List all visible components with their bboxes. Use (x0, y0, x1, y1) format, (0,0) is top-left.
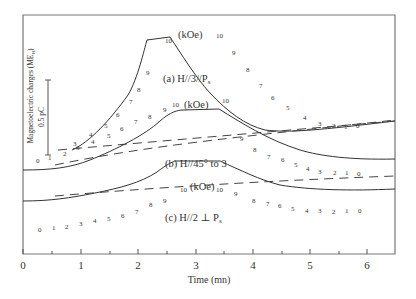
svg-text:0: 0 (356, 122, 360, 130)
svg-text:4: 4 (91, 138, 95, 146)
svg-text:9: 9 (163, 106, 167, 114)
svg-text:6: 6 (116, 111, 120, 119)
svg-text:3: 3 (193, 259, 199, 271)
svg-text:(kOe): (kOe) (178, 29, 203, 41)
svg-text:6: 6 (120, 125, 124, 133)
svg-text:2: 2 (332, 122, 336, 130)
svg-text:0: 0 (20, 259, 26, 271)
svg-text:10: 10 (180, 186, 188, 194)
svg-text:4: 4 (303, 114, 307, 122)
x-axis-label: Time (mn) (188, 274, 231, 286)
svg-text:9: 9 (146, 69, 150, 77)
svg-text:10: 10 (165, 37, 173, 45)
svg-text:3: 3 (76, 144, 80, 152)
svg-text:1: 1 (78, 259, 84, 271)
svg-text:6: 6 (121, 212, 125, 220)
svg-text:4: 4 (306, 165, 310, 173)
svg-text:8: 8 (148, 113, 152, 121)
svg-text:4: 4 (93, 217, 97, 225)
svg-text:9: 9 (240, 135, 244, 143)
svg-text:2: 2 (65, 223, 69, 231)
svg-text:6: 6 (364, 259, 370, 271)
svg-text:8: 8 (137, 86, 141, 94)
svg-text:9: 9 (234, 190, 238, 198)
svg-text:(kOe): (kOe) (190, 181, 215, 193)
svg-text:5: 5 (307, 259, 313, 271)
svg-text:10: 10 (222, 97, 230, 105)
svg-text:2: 2 (332, 208, 336, 216)
scale-bar: 0.5 pC (37, 80, 51, 155)
chart-canvas: 0 1 2 3 4 5 6 Time (mn) Magnetoelectric … (0, 0, 416, 299)
svg-text:8: 8 (246, 66, 250, 74)
svg-text:5: 5 (107, 215, 111, 223)
svg-text:7: 7 (129, 98, 133, 106)
svg-text:3: 3 (318, 207, 322, 215)
x-axis-tick-labels: 0 1 2 3 4 5 6 (20, 259, 370, 271)
svg-text:6: 6 (278, 202, 282, 210)
series-c: 0 1 2 3 4 5 6 7 8 9 10 10 9 8 7 6 5 4 3 … (23, 161, 395, 234)
svg-text:5: 5 (107, 132, 111, 140)
caption-a: (a) H//3//Ps (163, 73, 211, 86)
svg-text:6: 6 (271, 94, 275, 102)
caption-b: (b) H//45° to 3 (165, 158, 227, 170)
svg-text:0.5 pC: 0.5 pC (37, 107, 46, 127)
svg-text:5: 5 (104, 122, 108, 130)
svg-text:3: 3 (79, 220, 83, 228)
svg-text:0: 0 (357, 170, 361, 178)
svg-text:2: 2 (135, 259, 141, 271)
svg-text:0: 0 (36, 157, 40, 165)
svg-text:8: 8 (252, 197, 256, 205)
svg-text:9: 9 (163, 197, 167, 205)
x-axis-ticks (23, 249, 367, 254)
svg-text:1: 1 (52, 224, 56, 232)
svg-text:0: 0 (38, 226, 42, 234)
svg-text:8: 8 (149, 201, 153, 209)
svg-text:5: 5 (286, 104, 290, 112)
svg-text:1: 1 (48, 154, 52, 162)
svg-text:3: 3 (318, 120, 322, 128)
svg-text:8: 8 (253, 146, 257, 154)
svg-text:7: 7 (266, 200, 270, 208)
svg-text:2: 2 (333, 169, 337, 177)
svg-text:7: 7 (259, 82, 263, 90)
svg-text:3: 3 (318, 168, 322, 176)
svg-text:4: 4 (305, 207, 309, 215)
svg-text:7: 7 (135, 208, 139, 216)
caption-c: (c) H//2 ⊥ Ps (165, 212, 222, 225)
svg-text:7: 7 (267, 153, 271, 161)
svg-text:10: 10 (216, 32, 224, 40)
svg-text:9: 9 (232, 49, 236, 57)
svg-text:0: 0 (358, 207, 362, 215)
svg-text:1: 1 (344, 123, 348, 131)
svg-text:(kOe): (kOe) (184, 99, 209, 111)
svg-text:1: 1 (345, 207, 349, 215)
svg-text:6: 6 (281, 156, 285, 164)
svg-text:10: 10 (216, 186, 224, 194)
svg-text:4: 4 (250, 259, 256, 271)
svg-text:5: 5 (291, 205, 295, 213)
svg-text:5: 5 (294, 161, 298, 169)
svg-text:1: 1 (345, 169, 349, 177)
y-axis-label: Magnetoelectric charges (MEH) (26, 48, 36, 144)
svg-text:10: 10 (172, 101, 180, 109)
svg-text:2: 2 (63, 150, 67, 158)
svg-text:7: 7 (134, 118, 138, 126)
